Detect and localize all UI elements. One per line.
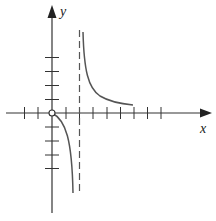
- y-axis-arrow-icon: [48, 5, 57, 18]
- x-axis-arrow-icon: [200, 109, 212, 118]
- x-axis: x: [6, 107, 212, 136]
- curve-left-branch: [52, 113, 73, 193]
- open-point-origin: [49, 110, 55, 116]
- y-axis-label: y: [58, 4, 67, 19]
- y-axis: y: [45, 4, 67, 213]
- curve-right-branch: [83, 32, 133, 105]
- graph-canvas: x y: [0, 0, 216, 221]
- x-axis-label: x: [199, 121, 207, 136]
